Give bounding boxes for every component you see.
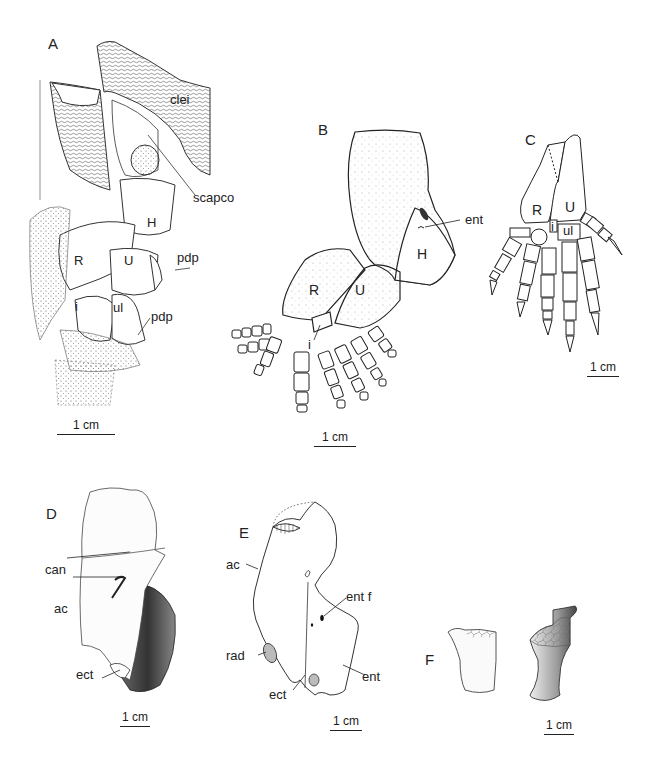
scale-bar-f-label: 1 cm [546, 718, 572, 732]
scale-bar-a-line [57, 434, 115, 435]
label-humerus: H [147, 216, 156, 229]
label-ac: ac [226, 558, 240, 571]
scale-bar-f-line [544, 734, 574, 735]
scale-bar-c: 1 cm [587, 360, 619, 377]
scale-bar-a: 1 cm [57, 418, 115, 435]
label-clei: clei [170, 93, 190, 106]
label-radius: R [309, 283, 319, 297]
panel-f: F 1 cm [420, 550, 657, 774]
panel-b: B ent H R U i 1 cm [220, 120, 470, 450]
label-radius: R [532, 203, 542, 217]
label-ulnare: ul [113, 301, 123, 314]
scale-bar-c-label: 1 cm [590, 360, 616, 374]
scale-bar-b: 1 cm [314, 430, 356, 447]
label-ulna: U [355, 283, 365, 297]
panel-a: A clei scapco H R U pdp i ul pdp 1 cm [0, 0, 230, 450]
label-ulna: U [565, 200, 575, 214]
panel-c: C R U i ul 1 cm [470, 120, 657, 390]
label-intermedium: i [551, 220, 554, 233]
scale-bar-d: 1 cm [120, 710, 150, 727]
label-ulnare: ul [563, 224, 573, 237]
label-canal: can [45, 563, 66, 576]
panel-c-drawing [470, 120, 657, 390]
label-ulna: U [124, 254, 133, 267]
label-pdp-2: pdp [151, 310, 173, 323]
panel-label-b: B [318, 122, 328, 137]
label-intermedium: i [75, 300, 78, 313]
panel-a-drawing [0, 0, 230, 450]
panel-e-drawing [200, 490, 430, 774]
scale-bar-f: 1 cm [544, 718, 574, 735]
panel-label-e: E [239, 525, 249, 540]
label-radial-facet: rad [226, 649, 245, 662]
label-entepicondylar-foramen: ent f [346, 590, 371, 603]
panel-label-d: D [46, 506, 57, 521]
panel-label-a: A [48, 36, 58, 51]
panel-e: E ac ent f rad ent ect 1 cm [200, 490, 430, 774]
scale-bar-c-line [587, 376, 619, 377]
panel-label-f: F [425, 652, 434, 667]
panel-f-drawing [420, 550, 657, 774]
scale-bar-d-label: 1 cm [122, 710, 148, 724]
panel-d: D can ac ect 1 cm [20, 480, 220, 774]
label-ectepicondyle: ect [269, 688, 286, 701]
label-intermedium: i [308, 338, 311, 351]
scale-bar-e: 1 cm [330, 714, 362, 731]
panel-d-drawing [20, 480, 220, 774]
scale-bar-d-line [120, 726, 150, 727]
scale-bar-b-line [314, 446, 356, 447]
scale-bar-e-line [330, 730, 362, 731]
label-radius: R [74, 254, 83, 267]
scale-bar-b-label: 1 cm [322, 430, 348, 444]
label-entepicondyle: ent [362, 670, 380, 683]
panel-b-drawing [220, 120, 470, 450]
panel-label-c: C [525, 132, 536, 147]
label-ect: ect [76, 668, 93, 681]
scale-bar-e-label: 1 cm [333, 714, 359, 728]
label-ac: ac [54, 602, 68, 615]
label-pdp-1: pdp [177, 251, 199, 264]
scale-bar-a-label: 1 cm [73, 418, 99, 432]
label-humerus: H [417, 247, 427, 261]
